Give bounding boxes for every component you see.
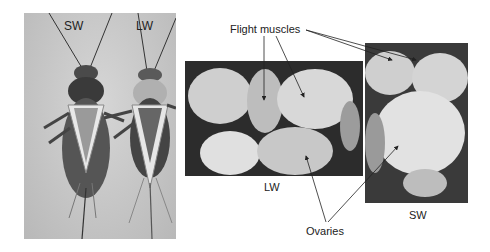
- label-ovaries: Ovaries: [306, 225, 344, 237]
- label-flight-muscles: Flight muscles: [230, 23, 300, 35]
- label-sw-panel: SW: [409, 209, 427, 221]
- label-lw-cricket: LW: [136, 19, 153, 33]
- sw-dissection-photo: [365, 43, 468, 203]
- label-sw-cricket: SW: [64, 19, 83, 33]
- cricket-photo-panel: [24, 13, 176, 239]
- label-lw-panel: LW: [264, 181, 280, 193]
- lw-tissue-illustration: [185, 61, 363, 176]
- lw-dissection-photo: [185, 61, 363, 176]
- sw-tissue-illustration: [365, 43, 468, 203]
- crickets-illustration: [24, 13, 176, 239]
